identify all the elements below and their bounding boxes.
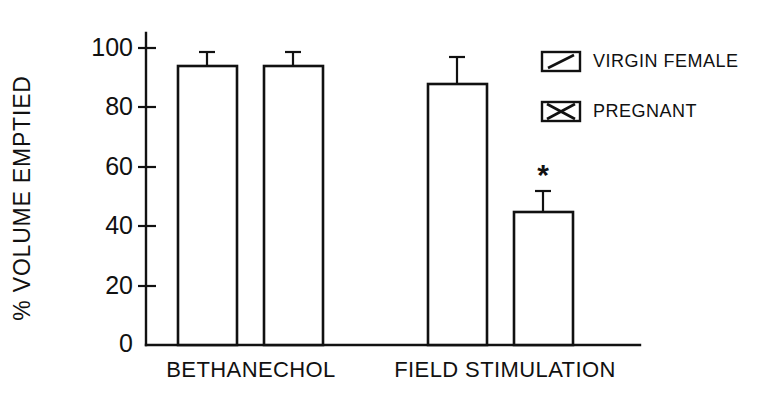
bar-outline (178, 66, 237, 345)
bar-outline (264, 66, 323, 345)
y-axis-title: % VOLUME EMPTIED (9, 75, 35, 320)
tick-label: 100 (91, 33, 133, 61)
tick-label: 80 (105, 92, 133, 120)
legend-label-virgin-female: VIRGIN FEMALE (593, 51, 739, 71)
legend-label-pregnant: PREGNANT (593, 101, 697, 121)
bar-bethanechol-pregnant (264, 52, 323, 345)
y-tick-0: 0 (119, 329, 133, 357)
legend-item-pregnant: PREGNANT (542, 101, 697, 121)
bar-bethanechol-virgin-female (178, 52, 237, 345)
category-label-field-stimulation: FIELD STIMULATION (394, 357, 616, 382)
bar-outline (514, 212, 573, 345)
tick-label: 0 (119, 329, 133, 357)
legend-item-virgin-female: VIRGIN FEMALE (542, 51, 739, 71)
tick-label: 20 (105, 271, 133, 299)
chart-figure: % VOLUME EMPTIED 100 80 60 40 20 0 (0, 0, 758, 412)
significance-asterisk: * (537, 158, 549, 191)
bar-chart-svg: % VOLUME EMPTIED 100 80 60 40 20 0 (0, 0, 758, 412)
tick-label: 40 (105, 211, 133, 239)
tick-label: 60 (105, 152, 133, 180)
category-label-bethanechol: BETHANECHOL (166, 357, 335, 382)
bar-field-stimulation-virgin-female (428, 57, 487, 345)
bar-outline (428, 84, 487, 345)
